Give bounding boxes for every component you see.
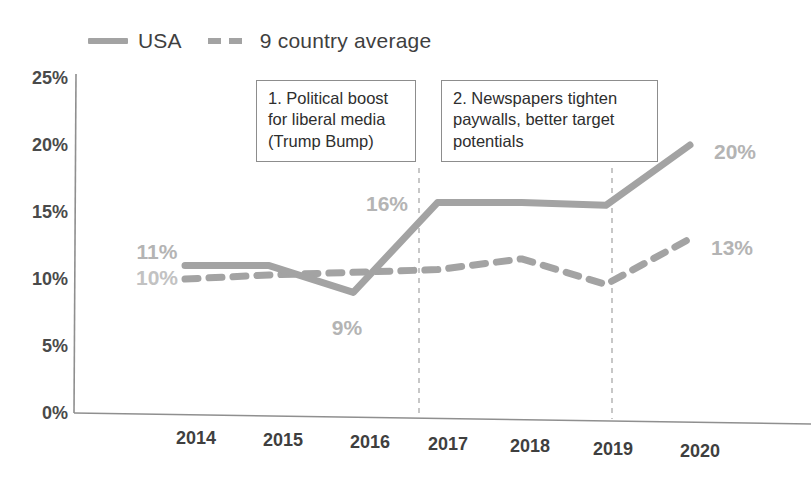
- annotation-2-line-2: paywalls, better target: [453, 109, 647, 130]
- chart-container: USA 9 country average 25% 20% 15% 10% 5%…: [0, 0, 811, 483]
- x-axis-line: [74, 413, 811, 424]
- annotation-box-2[interactable]: 2. Newspapers tighten paywalls, better t…: [441, 80, 658, 162]
- data-label-usa-2016: 9%: [332, 316, 362, 340]
- plot-area: [0, 0, 811, 483]
- data-label-usa-2014: 11%: [137, 240, 178, 264]
- y-axis-line: [74, 74, 76, 413]
- annotation-2-line-1: 2. Newspapers tighten: [453, 88, 647, 109]
- series-line-9-country-average: [185, 239, 690, 285]
- x-tick-2018: 2018: [510, 436, 550, 457]
- x-tick-2015: 2015: [263, 430, 303, 451]
- annotation-2-line-3: potentials: [453, 131, 647, 152]
- data-label-avg-2020: 13%: [711, 236, 753, 260]
- data-label-usa-2020: 20%: [714, 140, 756, 164]
- data-label-avg-2014: 10%: [136, 266, 178, 290]
- annotation-1-line-2: for liberal media: [268, 109, 405, 130]
- x-tick-2017: 2017: [428, 434, 468, 455]
- annotation-box-1[interactable]: 1. Political boost for liberal media (Tr…: [256, 80, 416, 162]
- annotation-1-line-3: (Trump Bump): [268, 131, 405, 152]
- x-tick-2020: 2020: [680, 441, 720, 462]
- annotation-1-line-1: 1. Political boost: [268, 88, 405, 109]
- x-tick-2016: 2016: [350, 432, 390, 453]
- data-label-usa-2017: 16%: [366, 192, 408, 216]
- x-tick-2019: 2019: [593, 439, 633, 460]
- x-tick-2014: 2014: [176, 428, 216, 449]
